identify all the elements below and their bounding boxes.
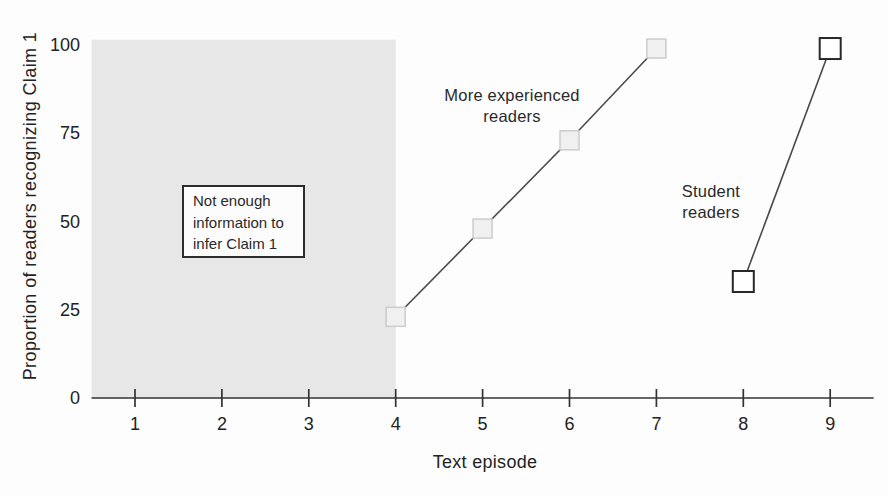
x-tick-label: 1 [130,414,140,434]
y-tick-label: 75 [60,123,80,143]
x-tick-label: 2 [217,414,227,434]
x-tick-label: 5 [478,414,488,434]
x-tick-label: 6 [564,414,574,434]
data-point-marker [560,131,579,150]
chart-canvas: 1234567890255075100 [0,0,889,497]
y-axis-title: Proportion of readers recognizing Claim … [20,0,44,421]
annotation-line: information to [193,212,303,234]
series-label-line: readers [651,202,771,223]
data-point-marker [733,271,754,292]
figure-line-chart: 1234567890255075100 Proportion of reader… [0,0,889,497]
series-label-line: Student [651,181,771,202]
x-tick-label: 3 [304,414,314,434]
annotation-box-not-enough-info: Not enough information to infer Claim 1 [182,185,305,258]
annotation-line: infer Claim 1 [193,233,303,255]
series-label-student-readers: Student readers [651,181,771,223]
y-tick-label: 100 [50,35,80,55]
y-tick-label: 0 [70,388,80,408]
annotation-line: Not enough [193,190,303,212]
x-tick-label: 9 [825,414,835,434]
x-tick-label: 8 [738,414,748,434]
series-label-line: readers [412,106,612,127]
x-tick-labels: 123456789 [130,414,835,434]
data-point-marker [473,219,492,238]
series-0 [386,39,666,326]
series-label-more-experienced-readers: More experienced readers [412,85,612,127]
data-point-marker [647,39,666,58]
x-tick-label: 4 [391,414,401,434]
data-point-marker [386,307,405,326]
data-point-marker [820,38,841,59]
series-1 [733,38,841,292]
series-label-line: More experienced [412,85,612,106]
y-tick-label: 50 [60,212,80,232]
y-tick-labels: 0255075100 [50,35,80,408]
series-line [743,49,830,282]
y-tick-label: 25 [60,300,80,320]
x-tick-label: 7 [651,414,661,434]
x-axis-title: Text episode [385,452,585,473]
